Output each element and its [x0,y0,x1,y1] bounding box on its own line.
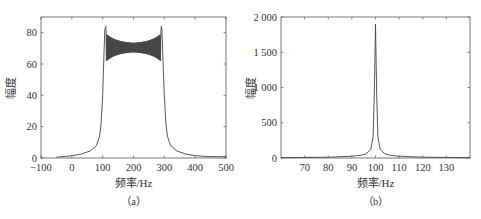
series-line [56,26,226,157]
x-tick-label: 100 [95,162,111,173]
plot-area-frame [41,17,226,158]
y-tick-label: 20 [27,121,38,132]
figure-caption: （a） [121,196,146,207]
y-tick-label: 500 [261,117,277,128]
x-tick-label: 70 [299,162,310,173]
figure-caption: （b） [363,196,388,207]
chart-b-panel: 70809010011012013005001 0001 5002 000频率/… [240,0,481,219]
x-tick-label: 120 [415,162,431,173]
x-tick-label: −100 [30,162,52,173]
y-tick-label: 1 500 [253,47,277,58]
x-tick-label: 100 [368,162,384,173]
y-tick-label: 60 [27,59,38,70]
x-tick-label: 300 [156,162,172,173]
y-axis-label: 幅度 [244,77,257,99]
x-tick-label: 0 [69,162,74,173]
y-tick-label: 40 [27,90,38,101]
x-tick-label: 90 [347,162,358,173]
x-axis-label: 频率/Hz [115,176,153,189]
chart-a: −1000100200300400500020406080频率/Hz幅度（a） [0,0,240,219]
series-line [281,24,470,158]
x-tick-label: 400 [187,162,203,173]
y-axis-label: 幅度 [4,77,17,99]
y-tick-label: 0 [272,153,277,164]
x-tick-label: 80 [323,162,334,173]
y-tick-label: 0 [32,153,37,164]
x-axis-label: 频率/Hz [357,176,395,189]
chart-a-panel: −1000100200300400500020406080频率/Hz幅度（a） [0,0,240,219]
y-tick-label: 80 [27,27,38,38]
x-tick-label: 130 [439,162,455,173]
x-tick-label: 110 [391,162,406,173]
x-tick-label: 500 [218,162,234,173]
x-tick-label: 200 [126,162,142,173]
y-tick-label: 2 000 [253,12,277,23]
chart-b: 70809010011012013005001 0001 5002 000频率/… [240,0,481,219]
